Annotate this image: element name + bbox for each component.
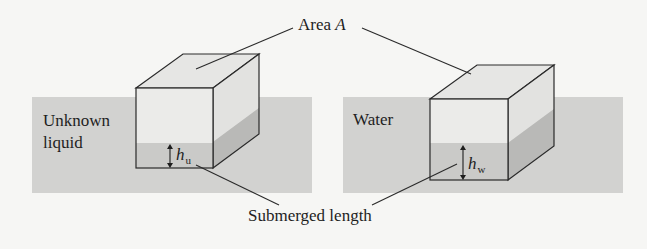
submerged-length-text: Submerged length [248, 206, 372, 225]
water-label: Water [353, 110, 393, 130]
height-u-subscript: u [186, 154, 192, 166]
unknown-liquid-line1: Unknown [43, 110, 110, 132]
height-w-label: hw [468, 154, 485, 175]
unknown-liquid-label: Unknown liquid [43, 110, 110, 154]
area-variable: A [335, 15, 345, 34]
area-a-label: Area A [298, 15, 346, 35]
area-label-text: Area [298, 15, 335, 34]
height-w-symbol: h [468, 154, 477, 173]
height-w-subscript: w [478, 163, 486, 175]
submerged-length-label: Submerged length [248, 206, 372, 226]
height-u-label: hu [176, 145, 191, 166]
unknown-liquid-line2: liquid [43, 132, 110, 154]
water-label-text: Water [353, 110, 393, 129]
height-u-symbol: h [176, 145, 185, 164]
